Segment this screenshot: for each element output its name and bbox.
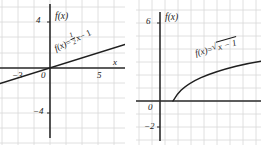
axis-label-x-linear: x [113,57,117,67]
x-tick-label-0: 0 [41,70,46,80]
graph-panel-linear: 4 −4 −3 0 5 f(x) x f(x)=12x− 1 [0,0,125,145]
y-tick-label-neg4: −4 [33,106,44,116]
y-tick-label-6: 6 [146,16,151,26]
y-tick-label-neg2: −2 [144,121,155,131]
two-panel-graph-figure: 4 −4 −3 0 5 f(x) x f(x)=12x− 1 [0,0,261,145]
y-tick-label-0-sqrt: 0 [148,102,153,112]
y-tick-label-4: 4 [36,15,41,25]
x-tick-label-neg3: −3 [12,70,23,80]
axis-label-fx-linear: f(x) [55,11,68,21]
x-tick-label-5: 5 [97,70,102,80]
graph-panel-sqrt: 6 0 −2 f(x) f(x)=x − 1 [136,0,261,145]
axis-label-fx-sqrt: f(x) [165,12,178,22]
